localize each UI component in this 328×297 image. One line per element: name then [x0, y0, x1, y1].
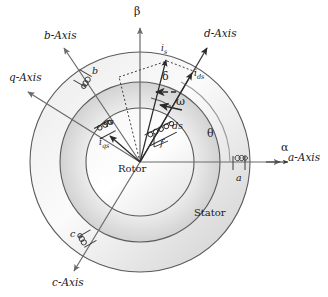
figure-canvas: α β a-Axis b-Axis c-Axis d-Axis q-Axis θ… [0, 0, 328, 297]
vector-label-iqs: iqs [99, 138, 109, 149]
coil-label-f: f [160, 138, 164, 148]
angle-label-delta: δ [162, 71, 169, 82]
vector-label-ids: ids [194, 69, 204, 80]
coil-label-a: a [236, 173, 242, 183]
coil-label-b: b [92, 66, 98, 76]
angle-label-omega: ω [176, 96, 185, 107]
coil-label-ds: ds [172, 121, 183, 131]
angle-label-theta: θ [207, 128, 214, 139]
coil-label-c: c [70, 229, 75, 239]
axis-label-d: d-Axis [204, 28, 237, 39]
region-label-rotor: Rotor [118, 164, 146, 174]
axis-label-q: q-Axis [9, 72, 42, 83]
region-label-stator: Stator [194, 208, 226, 218]
coil-label-qs: qs [103, 117, 114, 127]
axis-label-beta: β [134, 6, 140, 17]
axis-label-a: a-Axis [288, 152, 320, 163]
axis-label-b: b-Axis [44, 30, 77, 41]
axis-label-c: c-Axis [52, 277, 84, 288]
vector-label-is: is [161, 44, 167, 55]
